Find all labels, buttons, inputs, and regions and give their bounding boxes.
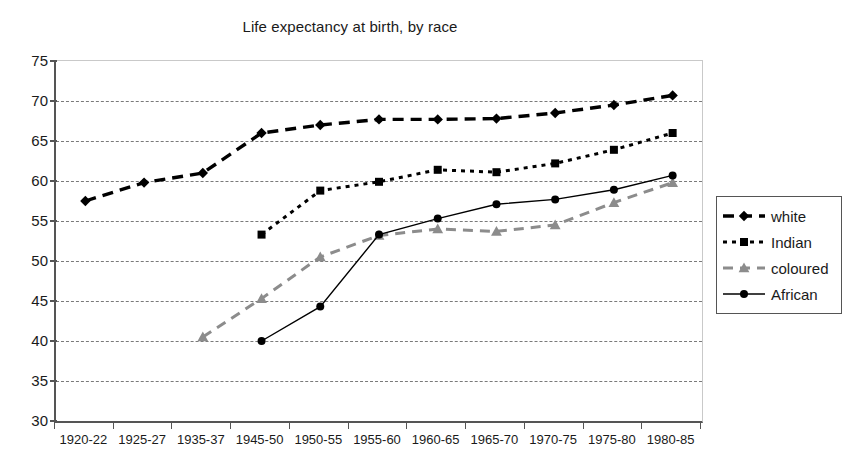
circle-marker (551, 195, 559, 203)
y-axis-tick-label: 55 (14, 212, 48, 229)
x-axis-tick-label: 1975-80 (588, 432, 636, 447)
diamond-marker (550, 108, 560, 118)
x-axis-tick-mark (230, 422, 231, 429)
x-axis-tick-mark (583, 422, 584, 429)
legend-swatch-white (721, 207, 767, 225)
diamond-marker (80, 196, 90, 206)
series-white (80, 90, 678, 206)
x-axis-tick-label: 1955-60 (353, 432, 401, 447)
y-axis-tick-mark (50, 300, 57, 302)
diamond-marker (315, 120, 325, 130)
x-axis-tick-label: 1965-70 (471, 432, 519, 447)
circle-marker (375, 231, 383, 239)
legend-label: coloured (767, 260, 829, 277)
y-axis-tick-mark (50, 260, 57, 262)
x-axis-tick-label: 1950-55 (294, 432, 342, 447)
y-axis-tick-mark (50, 60, 57, 62)
circle-marker (669, 171, 677, 179)
x-axis-tick-mark (406, 422, 407, 429)
diamond-marker (609, 100, 619, 110)
y-axis-tick-mark (50, 220, 57, 222)
y-axis: 75706560555045403530 (8, 60, 48, 420)
square-marker (258, 231, 266, 239)
series-Indian (258, 129, 677, 239)
square-marker (316, 187, 324, 195)
x-axis-tick-mark (113, 422, 114, 429)
square-marker (669, 129, 677, 137)
legend-swatch-coloured (721, 259, 767, 277)
y-axis-tick-label: 70 (14, 92, 48, 109)
y-axis-tick-label: 50 (14, 252, 48, 269)
x-axis-tick-mark (54, 422, 55, 429)
square-marker (551, 159, 559, 167)
circle-marker (492, 200, 500, 208)
circle-marker (610, 186, 618, 194)
x-axis-tick-label: 1980-85 (647, 432, 695, 447)
legend-item-coloured[interactable]: coloured (721, 255, 835, 281)
series-layer (56, 61, 702, 421)
circle-marker (258, 337, 266, 345)
circle-marker (316, 303, 324, 311)
y-axis-tick-mark (50, 140, 57, 142)
diamond-marker (433, 114, 443, 124)
y-axis-tick-label: 35 (14, 372, 48, 389)
legend-item-African[interactable]: African (721, 281, 835, 307)
square-marker (610, 146, 618, 154)
legend: whiteIndiancolouredAfrican (716, 196, 842, 314)
x-axis-tick-mark (289, 422, 290, 429)
diamond-marker (739, 211, 749, 221)
x-axis-ticks (54, 422, 702, 430)
legend-swatch-Indian (721, 233, 767, 251)
diamond-marker (139, 177, 149, 187)
y-axis-tick-mark (50, 420, 57, 422)
y-axis-tick-label: 75 (14, 52, 48, 69)
x-axis-tick-mark (641, 422, 642, 429)
series-line (203, 183, 673, 337)
x-axis-tick-label: 1925-27 (118, 432, 166, 447)
chart-page: Life expectancy at birth, by race 757065… (0, 0, 858, 471)
y-axis-tick-label: 30 (14, 412, 48, 429)
circle-marker (740, 290, 748, 298)
series-coloured (197, 177, 678, 341)
legend-item-Indian[interactable]: Indian (721, 229, 835, 255)
x-axis-tick-label: 1920-22 (60, 432, 108, 447)
x-axis-tick-mark (524, 422, 525, 429)
diamond-marker (491, 113, 501, 123)
diamond-marker (667, 90, 677, 100)
x-axis-tick-mark (465, 422, 466, 429)
y-axis-tick-mark (50, 340, 57, 342)
legend-swatch-African (721, 285, 767, 303)
legend-item-white[interactable]: white (721, 203, 835, 229)
legend-label: African (767, 286, 818, 303)
square-marker (492, 168, 500, 176)
y-axis-tick-mark (50, 180, 57, 182)
x-axis-tick-mark (348, 422, 349, 429)
y-axis-tick-label: 60 (14, 172, 48, 189)
circle-marker (434, 215, 442, 223)
y-axis-tick-label: 45 (14, 292, 48, 309)
square-marker (375, 178, 383, 186)
y-axis-tick-mark (50, 100, 57, 102)
legend-label: Indian (767, 234, 812, 251)
chart-title: Life expectancy at birth, by race (0, 18, 700, 35)
y-axis-tick-label: 65 (14, 132, 48, 149)
square-marker (434, 166, 442, 174)
x-axis-tick-label: 1960-65 (412, 432, 460, 447)
x-axis-tick-mark (171, 422, 172, 429)
x-axis-tick-label: 1945-50 (236, 432, 284, 447)
square-marker (740, 238, 748, 246)
x-axis-tick-mark (700, 422, 701, 429)
diamond-marker (374, 114, 384, 124)
x-axis-tick-label: 1970-75 (529, 432, 577, 447)
x-axis-tick-label: 1935-37 (177, 432, 225, 447)
x-axis: 1920-221925-271935-371945-501950-551955-… (54, 432, 700, 456)
y-axis-tick-mark (50, 380, 57, 382)
y-axis-tick-label: 40 (14, 332, 48, 349)
plot-area (54, 60, 703, 423)
legend-label: white (767, 208, 806, 225)
